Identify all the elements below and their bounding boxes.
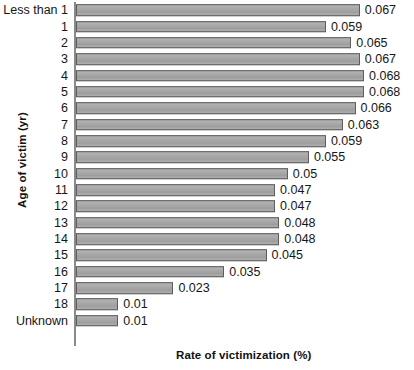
bar [76,70,364,82]
bar [76,217,279,229]
category-label: 1 [61,20,68,33]
bar [76,315,118,327]
value-label: 0.067 [365,4,396,17]
bar [76,266,224,278]
bar [76,299,118,311]
bar [76,184,275,196]
category-label: 14 [54,233,68,246]
value-label: 0.068 [369,86,400,99]
bar [76,119,343,131]
bar-row: 80.059 [74,133,414,149]
value-label: 0.01 [123,298,147,311]
bar [76,86,364,98]
value-label: 0.047 [280,184,311,197]
bar-row: 110.047 [74,182,414,198]
bar [76,102,356,114]
bar [76,37,351,49]
category-label: 13 [54,216,68,229]
value-label: 0.023 [178,282,209,295]
bar-row: 150.045 [74,247,414,263]
bar-row: 180.01 [74,296,414,312]
bar [76,282,173,294]
bar-row: 40.068 [74,67,414,83]
value-label: 0.035 [229,265,260,278]
bar-row: 20.065 [74,35,414,51]
bar-row: 130.048 [74,214,414,230]
value-label: 0.059 [331,135,362,148]
category-label: 5 [61,86,68,99]
category-label: 2 [61,37,68,50]
bar-row: 60.066 [74,100,414,116]
value-label: 0.066 [361,102,392,115]
value-label: 0.067 [365,53,396,66]
bar-row: 30.067 [74,51,414,67]
category-label: Unknown [16,314,68,327]
category-label: 9 [61,151,68,164]
x-axis-title: Rate of victimization (%) [176,349,311,361]
category-label: 16 [54,265,68,278]
category-label: Less than 1 [3,4,68,17]
value-label: 0.047 [280,200,311,213]
value-label: 0.068 [369,69,400,82]
category-label: 12 [54,200,68,213]
value-label: 0.055 [314,151,345,164]
bar [76,168,288,180]
bar [76,151,309,163]
bar-row: 140.048 [74,231,414,247]
category-label: 7 [61,118,68,131]
bar-row: 70.063 [74,116,414,132]
category-label: 3 [61,53,68,66]
bar-row: 100.05 [74,165,414,181]
y-axis-title: Age of victim (yr) [16,90,28,230]
category-label: 15 [54,249,68,262]
value-label: 0.059 [331,20,362,33]
bar [76,201,275,213]
bar-row: Unknown0.01 [74,313,414,329]
category-label: 10 [54,167,68,180]
bar [76,250,267,262]
bar [76,4,360,16]
value-label: 0.065 [356,37,387,50]
bar-row: 170.023 [74,280,414,296]
bar-row: 10.059 [74,18,414,34]
category-label: 8 [61,135,68,148]
bar-row: 50.068 [74,84,414,100]
bar-row: 120.047 [74,198,414,214]
bar [76,135,326,147]
value-label: 0.045 [272,249,303,262]
value-label: 0.048 [284,216,315,229]
bar-chart: Age of victim (yr) Less than 10.06710.05… [0,0,414,370]
value-label: 0.048 [284,233,315,246]
category-label: 11 [55,184,68,197]
bar [76,21,326,33]
value-label: 0.063 [348,118,379,131]
category-label: 6 [61,102,68,115]
bar [76,53,360,65]
bar-row: Less than 10.067 [74,2,414,18]
value-label: 0.01 [123,314,147,327]
category-label: 4 [61,69,68,82]
bar-row: 90.055 [74,149,414,165]
plot-area: Less than 10.06710.05920.06530.06740.068… [74,2,414,346]
category-label: 17 [54,282,68,295]
bar [76,233,279,245]
value-label: 0.05 [293,167,317,180]
bar-row: 160.035 [74,264,414,280]
category-label: 18 [54,298,68,311]
